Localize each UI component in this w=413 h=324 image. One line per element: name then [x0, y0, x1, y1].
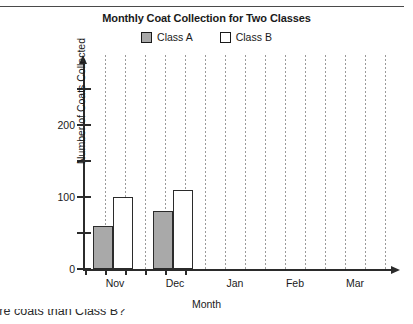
- bar-class-b-nov: [113, 197, 133, 269]
- bar-class-a-dec: [153, 211, 173, 269]
- bar-class-b-dec: [173, 190, 193, 269]
- gridline: [245, 55, 246, 269]
- chart-title: Monthly Coat Collection for Two Classes: [0, 12, 413, 24]
- x-label-dec: Dec: [166, 277, 185, 289]
- legend-label-class-a: Class A: [157, 31, 193, 43]
- gridline: [345, 55, 346, 269]
- x-label-feb: Feb: [286, 277, 304, 289]
- x-axis-line: [83, 269, 393, 271]
- gridline: [385, 55, 386, 269]
- legend-item-class-a: Class A: [141, 31, 193, 43]
- cut-off-question-label: more coats than Class B?: [0, 309, 125, 318]
- y-tick-label-200: 200: [45, 119, 75, 131]
- gridline: [305, 55, 306, 269]
- y-tick-label-100: 100: [45, 191, 75, 203]
- bar-class-a-nov: [93, 226, 113, 269]
- legend-label-class-b: Class B: [236, 31, 272, 43]
- x-label-jan: Jan: [227, 277, 244, 289]
- gridline: [365, 55, 366, 269]
- gridline: [225, 55, 226, 269]
- chart-page: Monthly Coat Collection for Two Classes …: [0, 0, 413, 324]
- legend-swatch-class-a: [141, 32, 152, 43]
- y-axis-title: Number of Coats Collected: [75, 26, 87, 176]
- x-label-mar: Mar: [346, 277, 364, 289]
- gridline: [285, 55, 286, 269]
- cut-off-question-text: more coats than Class B?: [0, 309, 413, 324]
- y-tick-label-0: 0: [45, 263, 75, 275]
- chart-legend: Class A Class B: [0, 31, 413, 43]
- x-label-nov: Nov: [106, 277, 125, 289]
- gridline: [205, 55, 206, 269]
- gridline: [325, 55, 326, 269]
- header-divider: [0, 6, 404, 7]
- legend-item-class-b: Class B: [220, 31, 272, 43]
- gridline: [265, 55, 266, 269]
- plot-area: 0100200 NovDecJanFebMar Number of Coats …: [83, 55, 401, 271]
- gridline: [145, 55, 146, 269]
- legend-swatch-class-b: [220, 32, 231, 43]
- x-axis-arrow-icon: [391, 266, 400, 274]
